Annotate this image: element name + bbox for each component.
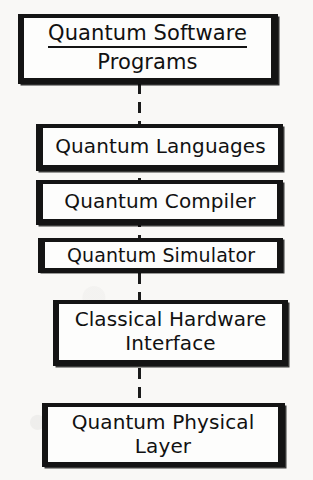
node-quantum-physical-layer[interactable]: Quantum Physical Layer [42, 403, 285, 467]
node-quantum-compiler[interactable]: Quantum Compiler [36, 180, 283, 225]
node-label-line: Quantum Software [48, 21, 247, 48]
node-label-line: Interface [125, 332, 215, 356]
node-label-line: Quantum Languages [55, 135, 266, 159]
node-label-line: Quantum Simulator [67, 244, 255, 266]
quantum-stack-diagram: Quantum Software Programs Quantum Langua… [0, 0, 313, 480]
node-label-line: Layer [135, 435, 191, 459]
node-quantum-software-programs[interactable]: Quantum Software Programs [18, 14, 278, 84]
node-label-line: Quantum Compiler [64, 190, 255, 214]
node-label-line: Programs [97, 50, 197, 75]
node-quantum-simulator[interactable]: Quantum Simulator [38, 238, 283, 273]
node-label-line: Quantum Physical [72, 411, 255, 435]
node-quantum-languages[interactable]: Quantum Languages [36, 124, 283, 171]
node-classical-hardware-interface[interactable]: Classical Hardware Interface [53, 300, 288, 366]
node-label-line: Classical Hardware [75, 308, 267, 332]
